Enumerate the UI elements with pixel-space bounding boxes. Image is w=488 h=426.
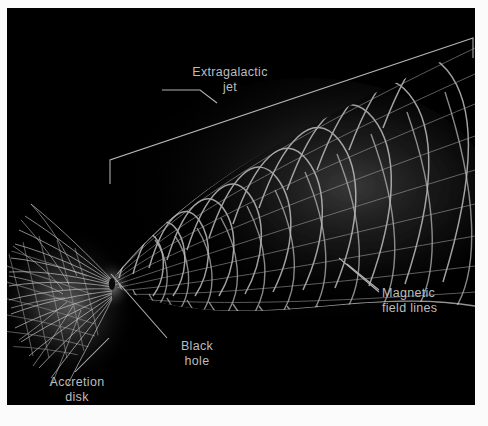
illustration-canvas: Extragalactic jet Magnetic field lines B… xyxy=(7,8,475,405)
jet-glow-layer xyxy=(122,78,475,318)
scene-illustration xyxy=(7,8,475,405)
figure-frame: Extragalactic jet Magnetic field lines B… xyxy=(0,0,488,426)
black-hole-nexus xyxy=(93,259,133,311)
